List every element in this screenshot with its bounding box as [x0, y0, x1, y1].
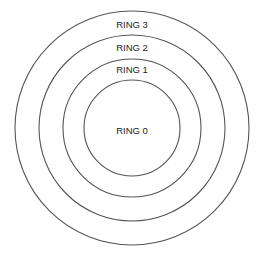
ring-1-label: RING 1	[116, 64, 148, 75]
ring-2-label: RING 2	[116, 42, 148, 53]
ring-diagram: RING 3 RING 2 RING 1 RING 0	[0, 0, 263, 256]
ring-0-label: RING 0	[116, 125, 148, 136]
ring-3-label: RING 3	[116, 19, 148, 30]
